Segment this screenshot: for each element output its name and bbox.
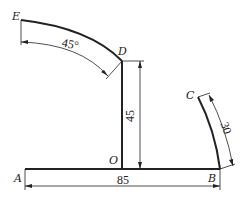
point-label-o: O <box>109 155 118 166</box>
point-label-a: A <box>14 173 22 184</box>
arc-bc <box>198 97 220 169</box>
point-label-b: B <box>208 173 216 184</box>
arrow-icon <box>138 61 142 68</box>
arrow-icon <box>138 162 142 169</box>
arrow-icon <box>209 95 214 102</box>
arrow-icon <box>25 184 32 188</box>
point-label-c: C <box>186 90 194 101</box>
ext-d <box>106 61 122 79</box>
point-label-d: D <box>118 46 127 57</box>
dim-label-85: 85 <box>117 174 129 186</box>
ext-c <box>198 93 210 97</box>
arrow-icon <box>101 70 108 76</box>
dim-label-45: 45 <box>124 110 136 122</box>
dim-label-45deg: 45° <box>61 36 80 51</box>
arrow-icon <box>21 40 28 44</box>
point-label-e: E <box>12 11 20 22</box>
diagram-canvas <box>0 0 248 200</box>
